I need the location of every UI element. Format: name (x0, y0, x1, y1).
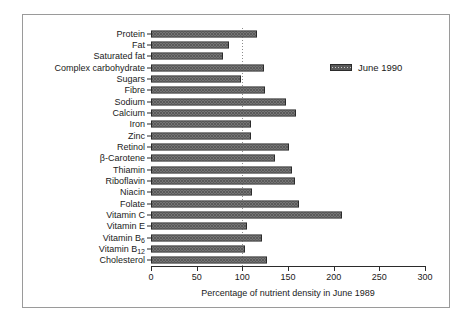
bar-cholesterol (151, 257, 267, 264)
chart-row: Iron (0, 119, 472, 130)
chart-row: Fibre (0, 85, 472, 96)
bar-vitamin-b6 (151, 234, 262, 241)
bar-folate (151, 200, 299, 207)
bar-iron (151, 121, 251, 128)
y-axis-label-calcium: Calcium (112, 108, 145, 118)
bar-niacin (151, 189, 252, 196)
y-axis-label-riboflavin: Riboflavin (105, 176, 145, 186)
y-axis-label-fibre: Fibre (124, 85, 145, 95)
chart-row: Riboflavin (0, 175, 472, 186)
y-axis-label-niacin: Niacin (120, 187, 145, 197)
y-axis-label-iron: Iron (129, 119, 145, 129)
bar-sugars (151, 75, 241, 82)
bar-carotene (151, 155, 275, 162)
chart-row: Fat (0, 39, 472, 50)
y-axis-label-sodium: Sodium (114, 97, 145, 107)
bar-riboflavin (151, 177, 295, 184)
bar-fat (151, 41, 229, 48)
y-axis-label-folate: Folate (120, 199, 145, 209)
bar-thiamin (151, 166, 292, 173)
y-axis-label-fat: Fat (132, 40, 145, 50)
chart-row: Vitamin B12 (0, 243, 472, 254)
x-tick-label-200: 200 (326, 272, 341, 283)
chart-row: Niacin (0, 187, 472, 198)
y-axis-label-vitamin-c: Vitamin C (106, 210, 145, 220)
x-tick-label-0: 0 (148, 272, 153, 283)
x-tick-0 (151, 266, 152, 271)
y-axis-label-vitamin-b12: Vitamin B12 (99, 243, 145, 254)
chart-row: β-Carotene (0, 153, 472, 164)
bar-zinc (151, 132, 251, 139)
chart-row: Saturated fat (0, 51, 472, 62)
chart-row: Sugars (0, 73, 472, 84)
x-tick-250 (379, 266, 380, 271)
chart-row: Retinol (0, 141, 472, 152)
x-tick-label-50: 50 (192, 272, 202, 283)
chart-row: Cholesterol (0, 255, 472, 266)
y-axis-label-saturated-fat: Saturated fat (93, 51, 145, 61)
x-tick-150 (288, 266, 289, 271)
bar-sodium (151, 98, 286, 105)
x-tick-label-250: 250 (372, 272, 387, 283)
y-axis-label-zinc: Zinc (128, 131, 145, 141)
chart-row: Thiamin (0, 164, 472, 175)
bar-vitamin-b12 (151, 245, 245, 252)
y-axis-label-cholesterol: Cholesterol (99, 255, 145, 265)
y-axis-label-complex-carbohydrate: Complex carbohydrate (54, 63, 145, 73)
x-tick-300 (425, 266, 426, 271)
y-axis-label-thiamin: Thiamin (113, 165, 145, 175)
y-axis-label-vitamin-e: Vitamin E (107, 221, 145, 231)
x-tick-label-100: 100 (235, 272, 250, 283)
x-tick-label-150: 150 (280, 272, 295, 283)
y-axis-label-vitamin-b6: Vitamin B6 (103, 232, 145, 243)
x-tick-label-300: 300 (417, 272, 432, 283)
bar-retinol (151, 143, 289, 150)
bar-fibre (151, 87, 265, 94)
y-axis-label-retinol: Retinol (117, 142, 145, 152)
x-tick-200 (334, 266, 335, 271)
bar-saturated-fat (151, 53, 223, 60)
chart-row: Zinc (0, 130, 472, 141)
y-axis-label-sugars: Sugars (116, 74, 145, 84)
y-axis-label-protein: Protein (116, 29, 145, 39)
chart-row: Folate (0, 198, 472, 209)
x-axis-title: Percentage of nutrient density in June 1… (151, 288, 425, 298)
chart-row: Vitamin C (0, 209, 472, 220)
chart-row: Vitamin B6 (0, 232, 472, 243)
chart-figure: Percentage of nutrient density in June 1… (0, 0, 472, 324)
x-tick-50 (197, 266, 198, 271)
x-tick-100 (242, 266, 243, 271)
chart-row: Protein (0, 28, 472, 39)
y-axis-label-carotene: β-Carotene (100, 153, 145, 163)
bar-calcium (151, 109, 296, 116)
chart-row: Calcium (0, 107, 472, 118)
bar-complex-carbohydrate (151, 64, 264, 71)
bar-protein (151, 30, 257, 37)
bar-vitamin-c (151, 211, 342, 218)
chart-row: Sodium (0, 96, 472, 107)
chart-row: Vitamin E (0, 221, 472, 232)
bar-vitamin-e (151, 223, 247, 230)
chart-row: Complex carbohydrate (0, 62, 472, 73)
